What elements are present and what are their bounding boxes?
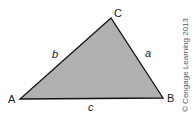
side-label-c: c <box>88 101 94 113</box>
vertex-label-a: A <box>8 93 16 105</box>
vertex-label-b: B <box>167 92 174 104</box>
side-label-b: b <box>52 48 58 60</box>
side-label-a: a <box>145 47 151 59</box>
triangle-diagram: A B C b a c © Cengage Learning 2013 <box>0 0 196 119</box>
copyright-notice: © Cengage Learning 2013 <box>181 17 190 112</box>
triangle-abc <box>20 18 163 99</box>
vertex-label-c: C <box>114 7 122 19</box>
